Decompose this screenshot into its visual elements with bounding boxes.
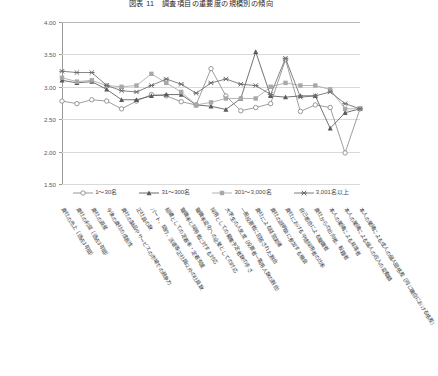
y-tick-label: 1.50	[22, 181, 56, 188]
data-point-square	[119, 85, 123, 89]
data-point-square	[194, 103, 198, 107]
data-point-circle	[81, 190, 85, 194]
data-point-square	[343, 107, 347, 111]
legend-label: 3,001名以上	[316, 188, 349, 196]
data-point-x	[238, 82, 244, 86]
data-point-circle	[209, 66, 213, 70]
data-point-circle	[313, 103, 317, 107]
data-point-circle	[298, 109, 302, 113]
x-axis-category-labels: 貴社の売上（過去3年間）貴社の利益（過去3年間）貴社の資産今後の貴社の成長性貴社…	[0, 206, 402, 374]
legend-item-2[interactable]: 31～300名	[139, 188, 190, 197]
plot-area	[62, 22, 360, 184]
data-point-square	[313, 83, 317, 87]
y-tick-mark	[59, 184, 62, 185]
y-tick-label: 2.50	[22, 116, 56, 123]
data-point-circle	[268, 101, 272, 105]
data-point-square	[60, 76, 64, 80]
data-point-square	[134, 83, 138, 87]
data-point-square	[220, 190, 224, 194]
data-point-x	[301, 190, 307, 194]
data-point-x	[89, 70, 95, 74]
legend-marker-triangle	[139, 189, 159, 197]
data-point-x	[223, 77, 229, 81]
data-point-circle	[90, 98, 94, 102]
data-point-square	[239, 96, 243, 100]
data-point-circle	[254, 105, 258, 109]
data-point-x	[149, 83, 155, 87]
data-point-x	[134, 90, 140, 94]
data-point-x	[193, 91, 199, 95]
legend-item-4[interactable]: 3,001名以上	[294, 188, 349, 197]
data-point-circle	[60, 99, 64, 103]
legend-marker-square	[212, 189, 232, 197]
data-point-x	[74, 70, 80, 74]
data-point-circle	[105, 99, 109, 103]
gridline	[62, 184, 360, 185]
data-point-x	[178, 82, 184, 86]
y-tick-label: 3.00	[22, 83, 56, 90]
legend-label: 301～3,000名	[234, 188, 271, 196]
data-point-x	[59, 69, 65, 73]
legend-item-3[interactable]: 301～3,000名	[212, 188, 271, 197]
data-point-square	[90, 78, 94, 82]
data-point-x	[253, 83, 259, 87]
data-point-x	[208, 81, 214, 85]
data-point-square	[179, 90, 183, 94]
data-point-circle	[75, 101, 79, 105]
data-point-square	[164, 81, 168, 85]
y-tick-label: 4.00	[22, 19, 56, 26]
series-2	[60, 49, 363, 130]
legend-label: 31～300名	[161, 188, 190, 196]
data-point-square	[254, 96, 258, 100]
data-point-circle	[239, 109, 243, 113]
legend-label: 1～30名	[95, 188, 117, 196]
data-point-square	[298, 83, 302, 87]
data-point-square	[283, 81, 287, 85]
data-point-x	[342, 101, 348, 105]
data-point-square	[224, 96, 228, 100]
data-point-x	[119, 88, 125, 92]
data-point-triangle	[253, 49, 258, 54]
data-point-square	[149, 72, 153, 76]
data-point-circle	[328, 105, 332, 109]
data-point-circle	[179, 100, 183, 104]
y-tick-label: 2.00	[22, 148, 56, 155]
data-point-square	[209, 100, 213, 104]
series-lines	[62, 22, 360, 184]
data-point-x	[164, 77, 170, 81]
data-point-square	[268, 85, 272, 89]
legend-marker-x	[294, 189, 314, 197]
data-point-circle	[119, 107, 123, 111]
legend-marker-circle	[73, 189, 93, 197]
data-point-square	[75, 79, 79, 83]
x-category-label: 本人の業績による成人の個人間格差（同じ職位における格差）	[357, 206, 438, 329]
legend-item-1[interactable]: 1～30名	[73, 188, 117, 197]
data-point-circle	[343, 151, 347, 155]
y-tick-label: 3.50	[22, 51, 56, 58]
chart-title: 図表 11 調査項目の重要度の規模別の傾向	[0, 0, 402, 8]
